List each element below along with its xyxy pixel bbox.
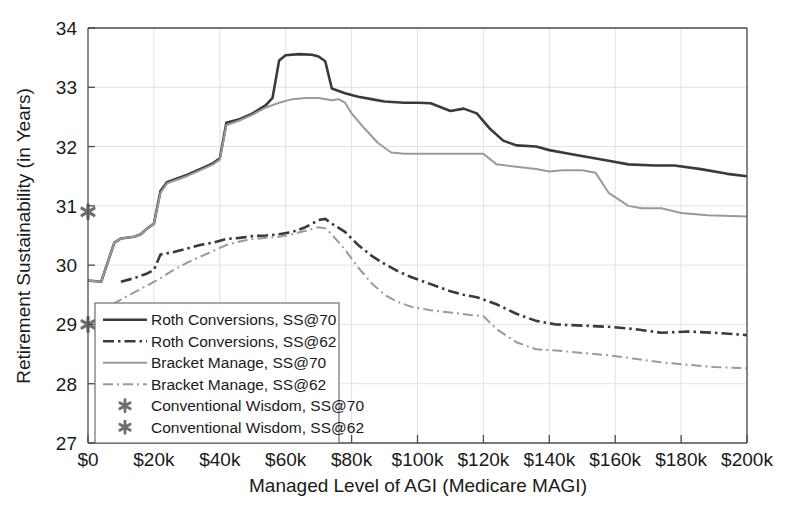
x-tick-label: $0 xyxy=(77,449,98,470)
y-axis-title: Retirement Sustainability (in Years) xyxy=(13,88,34,384)
y-tick-labels: 2728293031323334 xyxy=(56,18,78,454)
legend-item-label: Bracket Manage, SS@62 xyxy=(151,376,326,393)
y-tick-label: 33 xyxy=(56,77,77,98)
chart-legend: Roth Conversions, SS@70Roth Conversions,… xyxy=(95,303,364,443)
x-tick-label: $20k xyxy=(133,449,175,470)
legend-item-label: Roth Conversions, SS@62 xyxy=(151,333,336,350)
legend-item-label: Bracket Manage, SS@70 xyxy=(151,354,327,371)
x-tick-label: $80k xyxy=(331,449,373,470)
x-tick-label: $180k xyxy=(655,449,707,470)
y-tick-label: 29 xyxy=(56,314,77,335)
x-tick-label: $140k xyxy=(523,449,575,470)
x-tick-label: $100k xyxy=(392,449,444,470)
x-tick-label: $120k xyxy=(458,449,510,470)
y-tick-label: 31 xyxy=(56,196,77,217)
y-tick-label: 30 xyxy=(56,255,77,276)
x-tick-labels: $0$20k$40k$60k$80k$100k$120k$140k$160k$1… xyxy=(77,449,773,470)
legend-item-label: Conventional Wisdom, SS@62 xyxy=(151,419,364,436)
y-tick-label: 34 xyxy=(56,18,78,39)
plot-canvas: $0$20k$40k$60k$80k$100k$120k$140k$160k$1… xyxy=(0,0,790,515)
y-tick-label: 28 xyxy=(56,374,77,395)
x-tick-label: $60k xyxy=(265,449,307,470)
x-tick-label: $160k xyxy=(589,449,641,470)
x-tick-label: $200k xyxy=(721,449,773,470)
legend-item-label: Conventional Wisdom, SS@70 xyxy=(151,397,364,414)
retirement-sustainability-line-chart: $0$20k$40k$60k$80k$100k$120k$140k$160k$1… xyxy=(0,0,790,515)
chart-figure: $0$20k$40k$60k$80k$100k$120k$140k$160k$1… xyxy=(0,0,790,515)
y-tick-label: 27 xyxy=(56,433,77,454)
x-axis-title: Managed Level of AGI (Medicare MAGI) xyxy=(249,475,587,496)
x-tick-label: $40k xyxy=(199,449,241,470)
y-tick-label: 32 xyxy=(56,137,77,158)
legend-item-label: Roth Conversions, SS@70 xyxy=(151,311,337,328)
